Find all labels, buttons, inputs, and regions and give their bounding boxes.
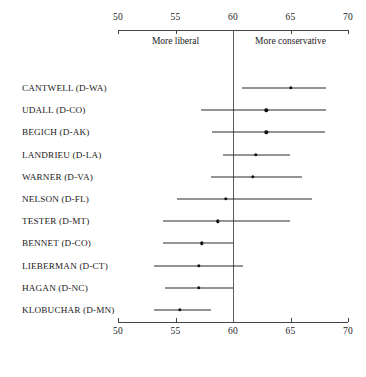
x-tick-bottom-50: [118, 318, 119, 322]
x-axis-line-bottom: [118, 322, 348, 323]
x-tick-top-70: [348, 30, 349, 34]
data-point-5: [224, 197, 227, 200]
data-point-1: [265, 108, 268, 111]
data-point-2: [265, 131, 268, 134]
data-point-3: [254, 153, 257, 156]
confidence-interval-1: [201, 110, 326, 111]
x-tick-label-top-65: 65: [286, 12, 296, 22]
data-point-7: [200, 242, 203, 245]
row-label-8: LIEBERMAN (D-CT): [22, 261, 108, 271]
data-point-10: [178, 308, 181, 311]
confidence-interval-10: [154, 310, 212, 311]
x-tick-top-50: [118, 30, 119, 34]
x-tick-label-bottom-50: 50: [113, 326, 123, 336]
row-label-4: WARNER (D-VA): [22, 172, 93, 182]
x-tick-bottom-70: [348, 318, 349, 322]
confidence-interval-6: [163, 221, 291, 222]
confidence-interval-4: [211, 176, 302, 177]
row-label-3: LANDRIEU (D-LA): [22, 150, 102, 160]
x-tick-top-65: [291, 30, 292, 34]
x-tick-label-bottom-65: 65: [286, 326, 296, 336]
row-label-5: NELSON (D-FL): [22, 194, 89, 204]
x-tick-bottom-55: [176, 318, 177, 322]
x-tick-label-top-50: 50: [113, 12, 123, 22]
x-tick-label-top-70: 70: [343, 12, 353, 22]
data-point-4: [251, 175, 254, 178]
row-label-10: KLOBUCHAR (D-MN): [22, 305, 115, 315]
row-label-7: BENNET (D-CO): [22, 238, 91, 248]
confidence-interval-7: [163, 243, 233, 244]
x-tick-top-55: [176, 30, 177, 34]
annotation-right: More conservative: [255, 36, 326, 46]
confidence-interval-5: [177, 199, 313, 200]
data-point-8: [197, 264, 200, 267]
confidence-interval-2: [212, 132, 325, 133]
forest-plot-figure: 50505555606065657070More liberalMore con…: [0, 0, 366, 377]
data-point-6: [216, 219, 219, 222]
x-tick-label-bottom-70: 70: [343, 326, 353, 336]
row-label-1: UDALL (D-CO): [22, 105, 85, 115]
row-label-6: TESTER (D-MT): [22, 216, 90, 226]
row-label-9: HAGAN (D-NC): [22, 283, 88, 293]
confidence-interval-0: [242, 88, 326, 89]
row-label-0: CANTWELL (D-WA): [22, 83, 107, 93]
annotation-left: More liberal: [152, 36, 199, 46]
data-point-0: [289, 86, 292, 89]
row-label-2: BEGICH (D-AK): [22, 127, 90, 137]
x-tick-bottom-65: [291, 318, 292, 322]
data-point-9: [197, 286, 200, 289]
x-tick-label-top-55: 55: [171, 12, 181, 22]
x-tick-label-bottom-55: 55: [171, 326, 181, 336]
x-tick-label-top-60: 60: [228, 12, 238, 22]
x-tick-label-bottom-60: 60: [228, 326, 238, 336]
